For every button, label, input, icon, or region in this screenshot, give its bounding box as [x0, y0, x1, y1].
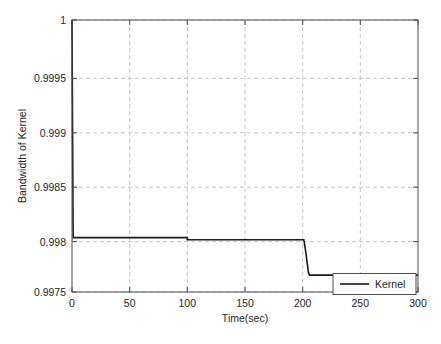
ytick-label-0.9995: 0.9995: [34, 72, 66, 84]
legend[interactable]: Kernel: [333, 274, 416, 295]
legend-label-kernel: Kernel: [375, 278, 405, 290]
ytick-label-1: 1: [60, 14, 66, 26]
y-axis-title: Bandwidth of Kernel: [16, 109, 28, 203]
x-axis-title: Time(sec): [222, 312, 268, 324]
line-chart: 1 0.9995 0.999 0.9985 0.998 0.9975 0 50 …: [0, 0, 441, 344]
xtick-label-150: 150: [236, 297, 254, 309]
ytick-label-0.998: 0.998: [40, 236, 66, 248]
xtick-label-250: 250: [352, 297, 370, 309]
ytick-label-0.999: 0.999: [40, 127, 66, 139]
xtick-label-0: 0: [69, 297, 75, 309]
y-axis-tick-labels: 1 0.9995 0.999 0.9985 0.998 0.9975: [34, 14, 66, 298]
figure-canvas: 1 0.9995 0.999 0.9985 0.998 0.9975 0 50 …: [0, 0, 441, 344]
xtick-label-100: 100: [179, 297, 197, 309]
xtick-label-300: 300: [409, 297, 427, 309]
ytick-label-0.9985: 0.9985: [34, 181, 66, 193]
xtick-label-200: 200: [294, 297, 312, 309]
xtick-label-50: 50: [124, 297, 136, 309]
x-axis-tick-labels: 0 50 100 150 200 250 300: [69, 297, 427, 309]
ytick-label-0.9975: 0.9975: [34, 286, 66, 298]
